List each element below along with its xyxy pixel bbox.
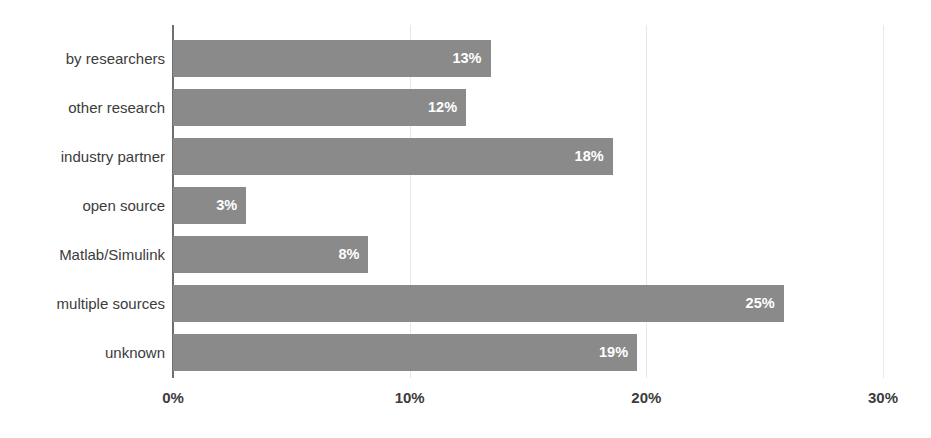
x-tick-0%: 0%	[133, 389, 213, 406]
bar-row: 13%	[173, 40, 491, 77]
bar[interactable]	[173, 334, 637, 371]
category-label-other-research: other research	[0, 89, 165, 126]
x-tick-30%: 30%	[843, 389, 923, 406]
category-label-multiple-sources: multiple sources	[0, 285, 165, 322]
gridline-10%	[410, 25, 411, 378]
bar-value-label: 18%	[575, 138, 604, 175]
bar[interactable]	[173, 40, 491, 77]
bar-row: 8%	[173, 236, 368, 273]
bar[interactable]	[173, 285, 784, 322]
bar-row: 19%	[173, 334, 637, 371]
bar-row: 25%	[173, 285, 784, 322]
bar-value-label: 13%	[452, 40, 481, 77]
bar-value-label: 19%	[599, 334, 628, 371]
x-tick-10%: 10%	[370, 389, 450, 406]
gridline-30%	[883, 25, 884, 378]
bar-value-label: 8%	[338, 236, 359, 273]
category-label-by-researchers: by researchers	[0, 40, 165, 77]
bar[interactable]	[173, 89, 466, 126]
bar-row: 18%	[173, 138, 613, 175]
plot-area: 13%12%18%3%8%25%19%	[173, 25, 883, 378]
gridline-20%	[646, 25, 647, 378]
bar-row: 3%	[173, 187, 246, 224]
bar[interactable]	[173, 138, 613, 175]
bar-value-label: 12%	[428, 89, 457, 126]
bar-value-label: 25%	[746, 285, 775, 322]
category-label-industry-partner: industry partner	[0, 138, 165, 175]
category-label-unknown: unknown	[0, 334, 165, 371]
bar-row: 12%	[173, 89, 466, 126]
category-label-open-source: open source	[0, 187, 165, 224]
bar-value-label: 3%	[216, 187, 237, 224]
x-tick-20%: 20%	[606, 389, 686, 406]
category-label-matlab-simulink: Matlab/Simulink	[0, 236, 165, 273]
bar-chart: 13%12%18%3%8%25%19% by researchersother …	[0, 0, 931, 438]
